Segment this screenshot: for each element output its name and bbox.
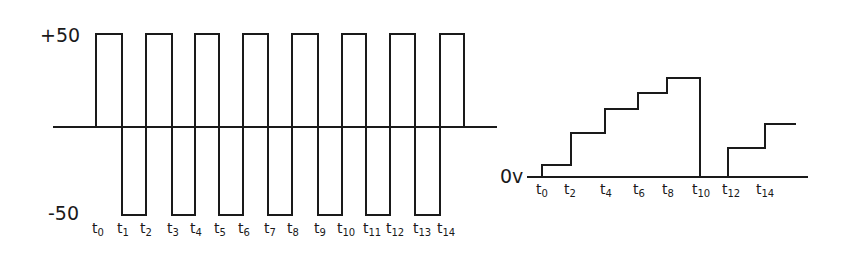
stair-time-label-t4: t4	[600, 181, 612, 199]
time-label-t10: t10	[337, 220, 355, 238]
stair-time-label-t6: t6	[633, 181, 645, 199]
time-label-t9: t9	[314, 220, 326, 238]
time-label-t0: t0	[92, 220, 104, 238]
time-label-t3: t3	[167, 220, 179, 238]
time-label-t4: t4	[190, 220, 202, 238]
y-label-minus-50: -50	[48, 202, 79, 224]
stair-time-label-t0: t0	[536, 181, 548, 199]
stair-time-label-t8: t8	[662, 181, 674, 199]
y-label-zero-volts: 0v	[500, 165, 523, 187]
staircase-generator-diagram: +50 -50 t0 t1 t2 t3 t4 t5 t6 t7 t8 t9 t1…	[0, 0, 843, 254]
time-label-t2: t2	[140, 220, 152, 238]
stair-time-label-t12: t12	[722, 181, 740, 199]
time-label-t5: t5	[214, 220, 226, 238]
time-label-t8: t8	[287, 220, 299, 238]
staircase-trace	[542, 78, 796, 177]
time-label-t11: t11	[363, 220, 381, 238]
time-label-t1: t1	[117, 220, 129, 238]
square-wave-trace	[96, 34, 464, 215]
time-label-t7: t7	[264, 220, 276, 238]
stair-time-label-t14: t14	[756, 181, 774, 199]
stair-time-label-t2: t2	[564, 181, 576, 199]
staircase-time-labels: t0 t2 t4 t6 t8 t10 t12 t14	[536, 181, 774, 199]
time-label-t13: t13	[413, 220, 431, 238]
time-label-t12: t12	[386, 220, 404, 238]
time-label-t14: t14	[437, 220, 455, 238]
stair-time-label-t10: t10	[692, 181, 710, 199]
time-label-t6: t6	[238, 220, 250, 238]
square-wave-panel: +50 -50 t0 t1 t2 t3 t4 t5 t6 t7 t8 t9 t1…	[40, 24, 497, 238]
staircase-panel: 0v t0 t2 t4 t6 t8 t10 t12 t14	[500, 78, 808, 199]
square-wave-time-labels: t0 t1 t2 t3 t4 t5 t6 t7 t8 t9 t10 t11 t1…	[92, 220, 455, 238]
y-label-plus-50: +50	[40, 24, 80, 46]
